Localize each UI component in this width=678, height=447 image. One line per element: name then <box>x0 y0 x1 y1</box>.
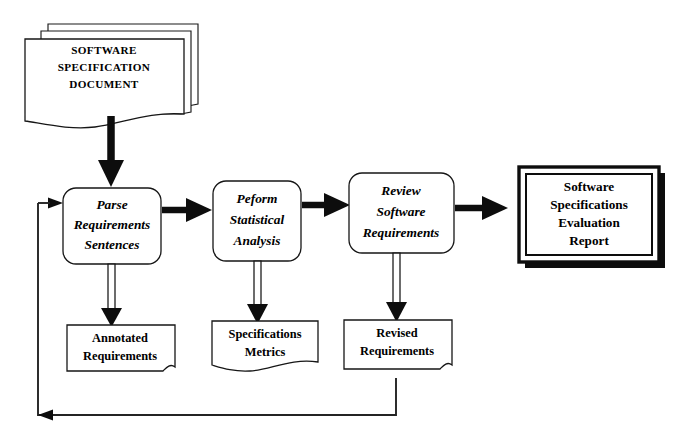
report-label-line-1: Software <box>564 179 614 194</box>
annotated-label-line-2: Requirements <box>83 349 157 363</box>
input-document-line-3: DOCUMENT <box>69 78 138 90</box>
input-document-line-1: SOFTWARE <box>71 44 137 56</box>
revised-label-line-2: Requirements <box>360 344 434 358</box>
diagram-canvas: SOFTWARE SPECIFICATION DOCUMENT Parse Re… <box>0 0 678 447</box>
parse-label-line-2: Requirements <box>73 217 151 232</box>
flowchart-diagram: SOFTWARE SPECIFICATION DOCUMENT Parse Re… <box>0 0 678 447</box>
metrics-label-line-2: Metrics <box>245 345 286 359</box>
input-document-line-2: SPECIFICATION <box>58 61 151 73</box>
software-specification-document: SOFTWARE SPECIFICATION DOCUMENT <box>25 24 198 128</box>
parse-label-line-3: Sentences <box>84 237 139 252</box>
metrics-label-line-1: Specifications <box>229 327 302 341</box>
revised-label-line-1: Revised <box>376 326 417 340</box>
parse-label-line-1: Parse <box>96 197 127 212</box>
data-store-annotated-requirements: Annotated Requirements <box>67 325 175 371</box>
process-peform-statistical-analysis: Peform Statistical Analysis <box>213 181 301 261</box>
data-store-specifications-metrics: Specifications Metrics <box>212 321 318 371</box>
data-store-revised-requirements: Revised Requirements <box>344 320 452 369</box>
connector-doc-to-parse <box>98 116 124 187</box>
report-label-line-2: Specifications <box>550 197 628 212</box>
connector-parse-to-annotated <box>101 264 122 327</box>
connector-review-to-revised <box>386 253 407 322</box>
connector-peform-to-review <box>302 193 350 217</box>
peform-label-line-3: Analysis <box>233 233 281 248</box>
process-parse-requirements-sentences: Parse Requirements Sentences <box>63 188 161 264</box>
connector-parse-to-peform <box>162 198 212 222</box>
peform-label-line-2: Statistical <box>230 212 285 227</box>
peform-label-line-1: Peform <box>237 191 278 206</box>
connector-review-to-report <box>455 196 508 220</box>
review-label-line-1: Review <box>380 183 420 198</box>
review-label-line-2: Software <box>376 204 425 219</box>
annotated-label-line-1: Annotated <box>92 331 148 345</box>
process-review-software-requirements: Review Software Requirements <box>349 173 454 253</box>
report-label-line-4: Report <box>569 233 609 248</box>
connector-peform-to-metrics <box>247 261 268 324</box>
review-label-line-3: Requirements <box>362 225 440 240</box>
report-label-line-3: Evaluation <box>558 215 620 230</box>
software-specifications-evaluation-report: Software Specifications Evaluation Repor… <box>519 167 665 268</box>
